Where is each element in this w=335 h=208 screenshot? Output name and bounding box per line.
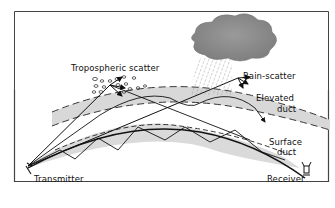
surface-duct xyxy=(28,124,300,168)
label-transmitter: Transmitter xyxy=(34,175,84,184)
label-elevated-duct: duct xyxy=(277,105,296,114)
label-tropospheric-scatter: Tropospheric scatter xyxy=(71,64,159,73)
label-rain-scatter: Rain-scatter xyxy=(243,72,296,81)
label-elevated: Elevated xyxy=(256,94,294,103)
label-receiver: Receiver xyxy=(267,175,305,184)
cloud xyxy=(190,14,277,95)
label-surface: Surface xyxy=(269,138,302,147)
label-surface-duct: duct xyxy=(277,148,296,157)
